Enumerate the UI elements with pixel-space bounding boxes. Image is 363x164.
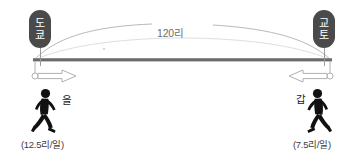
map-pin-tokyo-stem [40, 48, 41, 66]
walking-figure-eul [31, 89, 56, 133]
map-pin-tokyo: 도 쿄 [29, 10, 51, 66]
map-pin-kyoto: 교 토 [313, 10, 335, 66]
walking-figure-gap [307, 89, 332, 133]
map-pin-tokyo-badge: 도 쿄 [29, 10, 51, 48]
road-bar-highlight [33, 58, 332, 59]
map-pin-kyoto-char-1: 교 [319, 18, 329, 29]
arc-left-segment [34, 24, 152, 60]
speed-caption-eul: (12.5리/일) [21, 137, 64, 151]
left-origin-circle [32, 73, 38, 79]
arc-inner [34, 38, 331, 60]
traveler-label-eul: 을 [62, 92, 72, 107]
map-pin-tokyo-char-2: 쿄 [35, 30, 45, 41]
distance-label: 120리 [157, 25, 184, 40]
map-pin-kyoto-char-2: 토 [319, 30, 329, 41]
map-pin-tokyo-char-1: 도 [35, 18, 45, 29]
speck-artifact [103, 48, 105, 50]
travel-distance-diagram: 도 쿄 교 토 120리 을 갑 (12.5리/일) (7.5리/일) [0, 0, 363, 164]
arrow-right-icon [38, 70, 76, 82]
map-pin-kyoto-stem [324, 48, 325, 66]
traveler-label-gap: 갑 [296, 91, 306, 106]
speed-caption-gap: (7.5리/일) [293, 137, 331, 151]
right-origin-circle [327, 73, 333, 79]
map-pin-kyoto-badge: 교 토 [313, 10, 335, 48]
arrow-left-icon [289, 70, 327, 82]
